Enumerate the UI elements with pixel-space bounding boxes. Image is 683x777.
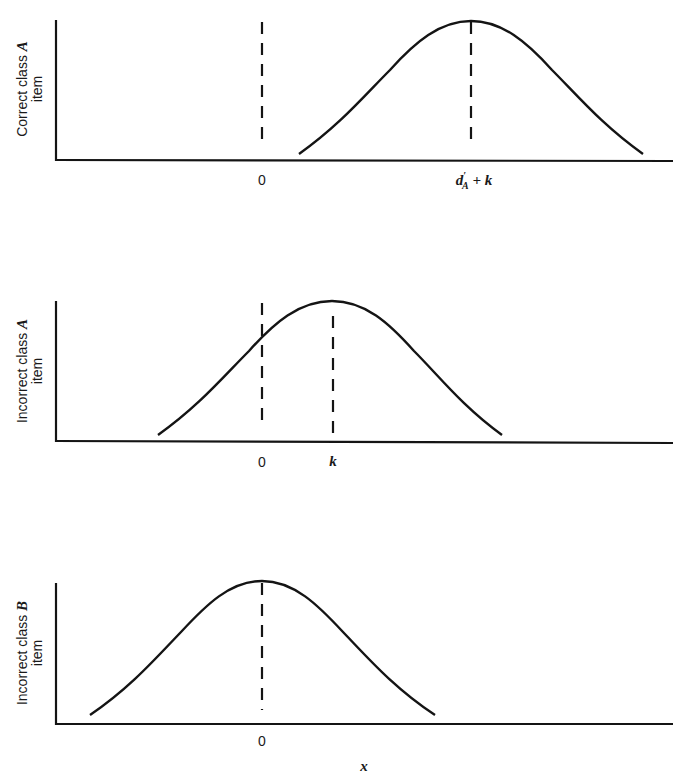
y-label-line1: Correct class <box>14 51 30 137</box>
tick-mean-top: d′A + k <box>456 170 493 191</box>
tick-sub-a: A <box>462 180 469 191</box>
y-label-line2: item <box>30 580 45 726</box>
y-axis-label-bottom: Incorrect class B item <box>15 580 45 726</box>
tick-plus-k: + k <box>469 172 493 188</box>
tick-zero-top: 0 <box>258 172 266 188</box>
tick-k-middle: k <box>329 453 337 470</box>
y-axis-label-middle: Incorrect class A item <box>15 298 45 444</box>
y-axis-label-top: Correct class A item <box>15 24 45 154</box>
x-axis-label: x <box>360 758 368 775</box>
tick-zero-middle: 0 <box>258 454 266 470</box>
y-label-line2: item <box>30 298 45 444</box>
tick-zero-bottom: 0 <box>258 733 266 749</box>
y-label-variable: A <box>14 319 30 329</box>
panel-incorrect-class-b <box>55 581 673 725</box>
normal-curve <box>158 301 502 435</box>
panel-incorrect-class-a <box>55 301 673 443</box>
x-axis <box>55 160 673 161</box>
y-label-variable: B <box>14 601 30 611</box>
distribution-diagram <box>0 0 683 777</box>
panel-correct-class-a <box>55 20 673 161</box>
y-label-variable: A <box>14 41 30 51</box>
y-label-line1: Incorrect class <box>14 329 30 423</box>
y-label-line1: Incorrect class <box>14 611 30 705</box>
x-axis <box>55 441 673 443</box>
y-label-line2: item <box>30 24 45 154</box>
